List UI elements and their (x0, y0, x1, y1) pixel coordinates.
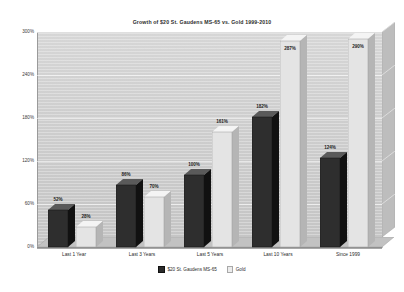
y-tick-label-0: 0% (4, 244, 34, 249)
legend-swatch-icon-gold (227, 266, 234, 273)
y-tick-label-180: 180% (4, 115, 34, 120)
legend-label-gold: Gold (236, 267, 246, 272)
x-tick-label-last-3-years: Last 3 Years (112, 252, 172, 257)
plot-area: 300% 240% 180% 120% 60% (0, 0, 404, 292)
x-tick-label-since-1999: Since 1999 (318, 252, 378, 257)
gridline-depth-60 (382, 194, 395, 205)
x-tick-label-last-10-years: Last 10 Years (248, 252, 308, 257)
gridline-depth-180 (382, 108, 395, 119)
plot-side-wall (382, 22, 395, 247)
chart-container: Growth of $20 St. Gaudens MS-65 vs. Gold… (0, 0, 404, 292)
bar-label-light-last-10-years: 287% (271, 46, 309, 51)
y-tick-label-120: 120% (4, 158, 34, 163)
chart-legend: $20 St. Gaudens MS-65 Gold (0, 266, 404, 273)
bar-dark-last-10-years[interactable] (252, 111, 281, 248)
gridline-depth-240 (382, 65, 395, 76)
bar-dark-last-5-years[interactable] (184, 169, 213, 248)
gridline-depth-120 (382, 151, 395, 162)
legend-swatch-icon-gaudens (158, 266, 165, 273)
gridline-300 (37, 32, 382, 33)
bar-label-light-last-1-year: 28% (67, 214, 105, 219)
bar-light-last-10-years[interactable] (280, 35, 309, 248)
y-tick-label-300: 300% (4, 29, 34, 34)
bar-label-dark-since-1999: 124% (311, 145, 349, 150)
bar-light-last-3-years[interactable] (144, 191, 173, 248)
bar-light-last-1-year[interactable] (76, 221, 105, 248)
bar-label-light-since-1999: 290% (339, 44, 377, 49)
bar-label-dark-last-10-years: 182% (243, 104, 281, 109)
gridline-240 (37, 75, 382, 76)
bar-dark-since-1999[interactable] (320, 152, 349, 248)
bar-label-dark-last-1-year: 52% (39, 197, 77, 202)
y-tick-label-240: 240% (4, 72, 34, 77)
x-tick-label-last-1-year: Last 1 Year (44, 252, 104, 257)
bar-label-dark-last-3-years: 86% (107, 172, 145, 177)
bar-light-since-1999[interactable] (348, 33, 377, 248)
bar-dark-last-3-years[interactable] (116, 179, 145, 248)
bar-label-dark-last-5-years: 100% (175, 162, 213, 167)
bar-label-light-last-5-years: 161% (203, 119, 241, 124)
bar-dark-last-1-year[interactable] (48, 204, 77, 248)
x-tick-label-last-5-years: Last 5 Years (180, 252, 240, 257)
legend-entry-gaudens[interactable]: $20 St. Gaudens MS-65 (158, 266, 216, 273)
legend-entry-gold[interactable]: Gold (227, 266, 246, 273)
y-tick-label-60: 60% (4, 201, 34, 206)
legend-label-gaudens: $20 St. Gaudens MS-65 (167, 267, 216, 272)
gridline-depth-300 (382, 22, 395, 33)
bar-label-light-last-3-years: 70% (135, 184, 173, 189)
bar-light-last-5-years[interactable] (212, 126, 241, 248)
